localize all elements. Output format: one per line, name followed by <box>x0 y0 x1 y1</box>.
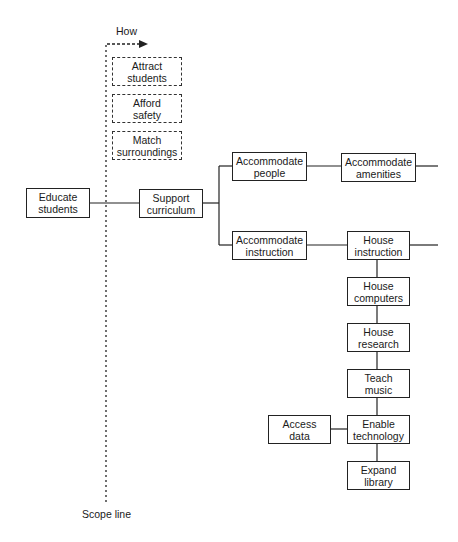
node-house-research: House research <box>347 323 410 352</box>
fast-diagram: How Scope line Attract students Afford s… <box>0 0 458 542</box>
node-educate-students: Educate students <box>26 188 90 218</box>
node-accommodate-amenities: Accommodate amenities <box>341 153 416 182</box>
node-access-data: Access data <box>268 415 331 444</box>
node-accommodate-people: Accommodate people <box>232 152 307 181</box>
node-label: Attract students <box>127 60 167 84</box>
node-house-computers: House computers <box>347 277 410 306</box>
node-enable-technology: Enable technology <box>347 415 410 444</box>
node-label: House instruction <box>355 234 403 258</box>
node-label: House research <box>358 326 399 350</box>
node-label: Afford safety <box>133 97 161 121</box>
how-question-attract-students: Attract students <box>112 57 182 86</box>
how-label: How <box>116 25 137 37</box>
how-question-afford-safety: Afford safety <box>112 94 182 123</box>
node-support-curriculum: Support curriculum <box>139 189 203 218</box>
how-question-match-surroundings: Match surroundings <box>112 131 182 160</box>
node-teach-music: Teach music <box>347 369 410 398</box>
node-house-instruction: House instruction <box>347 231 410 260</box>
node-expand-library: Expand library <box>347 461 410 490</box>
node-label: Expand library <box>361 464 397 488</box>
node-label: Access data <box>283 418 317 442</box>
node-label: Teach music <box>364 372 392 396</box>
node-label: Accommodate instruction <box>236 234 303 258</box>
node-label: Enable technology <box>353 418 404 442</box>
node-label: Accommodate people <box>236 155 303 179</box>
node-label: Accommodate amenities <box>345 156 412 180</box>
node-label: Support curriculum <box>147 192 195 216</box>
node-accommodate-instruction: Accommodate instruction <box>232 231 307 260</box>
node-label: Match surroundings <box>117 134 178 158</box>
node-label: House computers <box>354 280 403 304</box>
how-arrow-icon <box>139 40 148 48</box>
scope-line-label: Scope line <box>82 508 131 520</box>
node-label: Educate students <box>38 191 78 215</box>
